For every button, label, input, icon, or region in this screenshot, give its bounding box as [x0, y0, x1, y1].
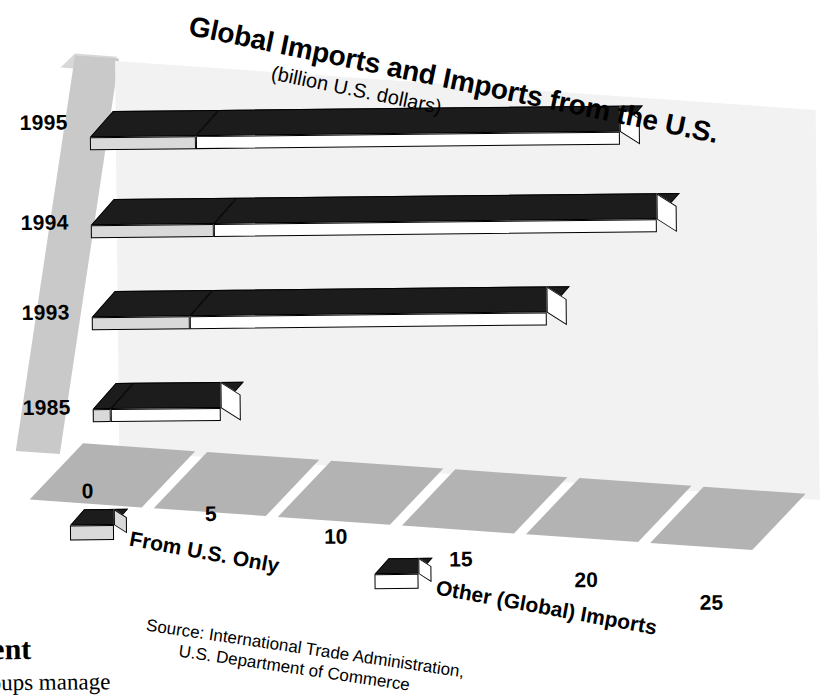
legend-swatch-right — [114, 509, 127, 533]
bar-face-front — [111, 408, 221, 422]
bar-face-front — [90, 136, 196, 150]
legend-swatch-front — [374, 574, 418, 589]
axis-label-year-1985: 1985 — [23, 395, 71, 420]
axis-label-year-1995: 1995 — [20, 110, 68, 135]
bar-1993 — [91, 286, 546, 317]
bar-1985 — [92, 382, 220, 409]
page-heading-fragment: ent — [0, 632, 31, 666]
page-body-fragment: oups manage — [0, 669, 110, 696]
bar-face-front — [93, 409, 111, 422]
bar-1994-segment-from-us — [91, 198, 214, 225]
bar-1985-segment-other — [110, 382, 220, 409]
legend-swatch-right — [418, 558, 431, 582]
axis-label-year-1994: 1994 — [21, 210, 69, 235]
bar-face-front — [91, 224, 214, 238]
bar-1985-segment-from-us — [92, 383, 110, 409]
bar-1993-segment-other — [189, 286, 546, 316]
bar-face-top — [190, 286, 570, 316]
legend-swatch-other — [374, 558, 418, 574]
bar-1995-segment-from-us — [90, 110, 196, 137]
chart-figure: 1995 1994 1993 1985 0 5 10 15 20 25 Glob… — [0, 0, 810, 697]
axis-tick-20: 20 — [574, 568, 598, 592]
bar-face-front — [92, 316, 190, 330]
bar-1994 — [91, 193, 657, 225]
legend-label-from-us: From U.S. Only — [128, 527, 282, 578]
legend-swatch-from-us — [70, 509, 114, 525]
bar-1993-segment-from-us — [91, 290, 189, 317]
axis-label-year-1993: 1993 — [22, 300, 70, 325]
legend-label-other: Other (Global) Imports — [434, 576, 659, 640]
axis-tick-0: 0 — [81, 479, 93, 503]
axis-tick-5: 5 — [205, 502, 217, 526]
axis-tick-25: 25 — [700, 591, 724, 615]
legend-swatch-front — [70, 525, 114, 540]
axis-tick-10: 10 — [324, 525, 348, 549]
source-note: Source: International Trade Administrati… — [142, 615, 466, 699]
bar-1994-segment-other — [214, 193, 657, 224]
axis-tick-15: 15 — [449, 547, 473, 571]
